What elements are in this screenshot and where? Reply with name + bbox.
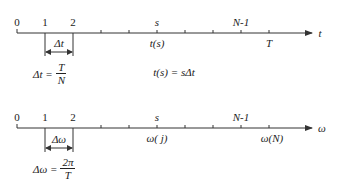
tick-label-s: s xyxy=(155,16,159,28)
tick-label-0: 0 xyxy=(14,16,20,28)
axis-variable-omega: ω xyxy=(318,122,326,134)
axis-variable-t: t xyxy=(318,27,321,39)
delta-t-label: Δt xyxy=(54,37,64,49)
freq-tick-label-2: 2 xyxy=(70,111,76,123)
freq-tick-label-1: 1 xyxy=(42,111,48,123)
delta-omega-formula-lhs: Δω = xyxy=(33,163,57,175)
time-relation-formula: t(s) = sΔt xyxy=(153,66,194,78)
tick-label-n-minus-1: N-1 xyxy=(233,16,250,28)
delta-t-denominator: N xyxy=(56,74,67,86)
delta-t-formula: Δt = T N xyxy=(33,61,67,86)
delta-t-formula-lhs: Δt = xyxy=(33,68,53,80)
freq-tick-label-omega-N: ω(N) xyxy=(261,132,283,144)
tick-label-1: 1 xyxy=(42,16,48,28)
freq-tick-label-omega-j: ω( j) xyxy=(147,132,168,144)
tick-label-T: T xyxy=(266,37,272,49)
freq-tick-label-n-minus-1: N-1 xyxy=(233,111,250,123)
freq-tick-label-s: s xyxy=(155,111,159,123)
delta-omega-label: Δω xyxy=(52,133,66,145)
freq-tick-label-0: 0 xyxy=(14,111,20,123)
tick-label-t-of-s: t(s) xyxy=(150,37,165,49)
delta-omega-numerator: 2π xyxy=(60,156,75,169)
delta-omega-denominator: T xyxy=(63,169,73,181)
delta-omega-formula: Δω = 2π T xyxy=(33,156,75,181)
tick-label-2: 2 xyxy=(70,16,76,28)
delta-t-numerator: T xyxy=(56,61,66,74)
